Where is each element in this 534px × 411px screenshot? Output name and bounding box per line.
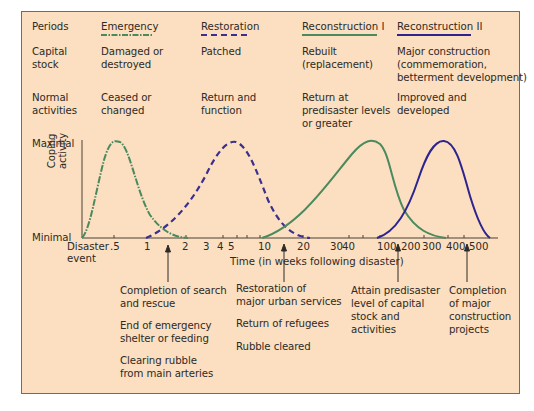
- x-tick-300: 300: [422, 241, 441, 253]
- x-tick-4: 4: [217, 241, 223, 253]
- milestone-1-b2: shelter or feeding: [120, 332, 209, 345]
- milestone-1-b1: End of emergency: [120, 319, 211, 332]
- x-tick-500: 500: [469, 241, 488, 253]
- x-tick-0.5: .5: [110, 241, 120, 253]
- x-tick-2: 2: [182, 241, 188, 253]
- x-tick-100: 100: [377, 241, 396, 253]
- x-tick-400: 400: [446, 241, 465, 253]
- milestone-1-a1: Completion of search: [120, 284, 227, 297]
- milestone-4-a4: projects: [449, 323, 489, 336]
- reconstruction1-curve: [262, 141, 446, 238]
- milestone-3-a4: activities: [351, 323, 396, 336]
- milestone-2-a2: major urban services: [236, 295, 342, 308]
- milestone-2-b1: Return of refugees: [236, 317, 329, 330]
- x-axis-title: Time (in weeks following disaster): [230, 256, 404, 268]
- milestone-1-a2: and rescue: [120, 297, 175, 310]
- reconstruction2-curve: [377, 141, 490, 238]
- x-tick-200: 200: [401, 241, 420, 253]
- x-tick-3: 3: [203, 241, 209, 253]
- milestone-3-a2: level of capital: [351, 297, 424, 310]
- milestone-3-a1: Attain predisaster: [351, 284, 440, 297]
- milestone-4-a2: of major: [449, 297, 491, 310]
- x-origin-label-2: event: [67, 253, 96, 265]
- x-tick-40: 40: [342, 241, 355, 253]
- milestone-1-c1: Clearing rubble: [120, 354, 197, 367]
- x-tick-20: 20: [297, 241, 310, 253]
- milestone-2-c1: Rubble cleared: [236, 340, 311, 353]
- emergency-curve: [82, 141, 188, 238]
- x-tick-10: 10: [258, 241, 271, 253]
- milestone-4-a1: Completion: [449, 284, 506, 297]
- x-tick-5: 5: [228, 241, 234, 253]
- restoration-curve: [146, 142, 310, 238]
- milestone-2-a1: Restoration of: [236, 282, 306, 295]
- x-tick-1: 1: [144, 241, 150, 253]
- milestone-1-c2: from main arteries: [120, 367, 213, 380]
- milestone-3-a3: stock and: [351, 310, 400, 323]
- x-origin-label-1: Disaster: [67, 241, 109, 253]
- milestone-4-a3: construction: [449, 310, 511, 323]
